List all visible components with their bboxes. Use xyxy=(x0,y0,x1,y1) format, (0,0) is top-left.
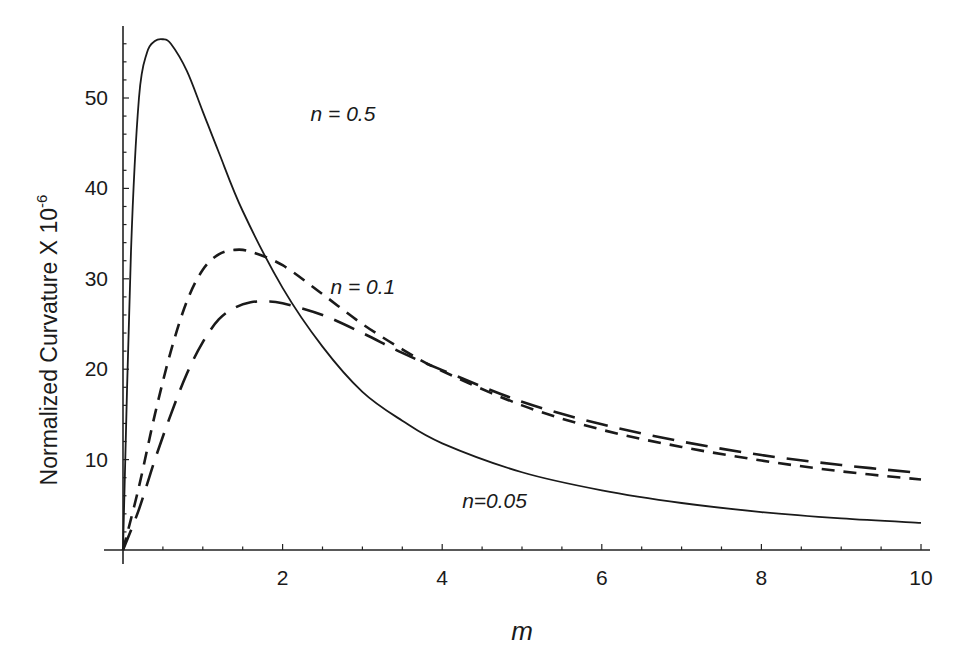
curve-annotation: n = 0.1 xyxy=(330,275,395,298)
y-tick-label: 50 xyxy=(85,86,108,109)
series-line-n-0-5 xyxy=(123,39,921,550)
series-lines xyxy=(123,39,921,550)
y-tick-label: 40 xyxy=(85,176,108,199)
x-tick-label: 6 xyxy=(596,566,608,589)
y-axis-label: Normalized Curvature X 10-6 xyxy=(33,195,62,486)
y-tick-label: 10 xyxy=(85,448,108,471)
curvature-chart: 2468101020304050 Normalized Curvature X … xyxy=(0,0,966,663)
curve-annotation: n=0.05 xyxy=(462,489,527,512)
y-tick-label: 20 xyxy=(85,357,108,380)
y-tick-label: 30 xyxy=(85,267,108,290)
x-tick-label: 4 xyxy=(436,566,448,589)
curve-annotation: n = 0.5 xyxy=(311,102,376,125)
x-tick-label: 2 xyxy=(277,566,289,589)
series-line-n-0-05 xyxy=(123,301,921,550)
curve-annotations: n = 0.5n = 0.1n=0.05 xyxy=(311,102,528,512)
axes xyxy=(104,26,930,564)
x-axis-label: m xyxy=(511,616,533,646)
x-tick-label: 10 xyxy=(909,566,932,589)
x-tick-label: 8 xyxy=(756,566,768,589)
